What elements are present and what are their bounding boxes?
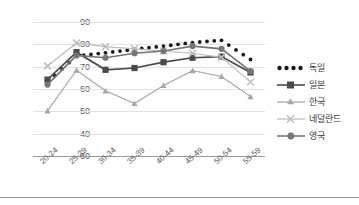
- chart-legend: 독일 일본 한국: [276, 60, 356, 145]
- legend-label: 독일: [306, 63, 325, 73]
- dotted-line-icon: [276, 61, 306, 75]
- legend-item-netherlands[interactable]: 네덜란드: [276, 111, 356, 127]
- plot-area: [33, 18, 265, 154]
- square-marker-icon: [276, 78, 306, 92]
- gridline-60: [33, 89, 265, 90]
- gridline-40: [33, 134, 265, 135]
- chart-container: 90 80 70 60 50 40 30 20-2425-2930-3435-3…: [0, 0, 359, 205]
- gridline-50: [33, 111, 265, 112]
- legend-label: 일본: [306, 80, 325, 90]
- legend-item-korea[interactable]: 한국: [276, 94, 356, 110]
- x-axis-line: [33, 156, 265, 157]
- legend-item-germany[interactable]: 독일: [276, 60, 356, 76]
- x-marker-icon: [276, 112, 306, 126]
- legend-label: 영국: [306, 131, 325, 141]
- gridline-90: [33, 22, 265, 23]
- legend-label: 네덜란드: [306, 114, 341, 124]
- legend-item-japan[interactable]: 일본: [276, 77, 356, 93]
- triangle-marker-icon: [276, 95, 306, 109]
- gridline-80: [33, 44, 265, 45]
- legend-item-uk[interactable]: 영국: [276, 128, 356, 144]
- gridline-70: [33, 67, 265, 68]
- circle-marker-icon: [276, 129, 306, 143]
- legend-label: 한국: [306, 97, 325, 107]
